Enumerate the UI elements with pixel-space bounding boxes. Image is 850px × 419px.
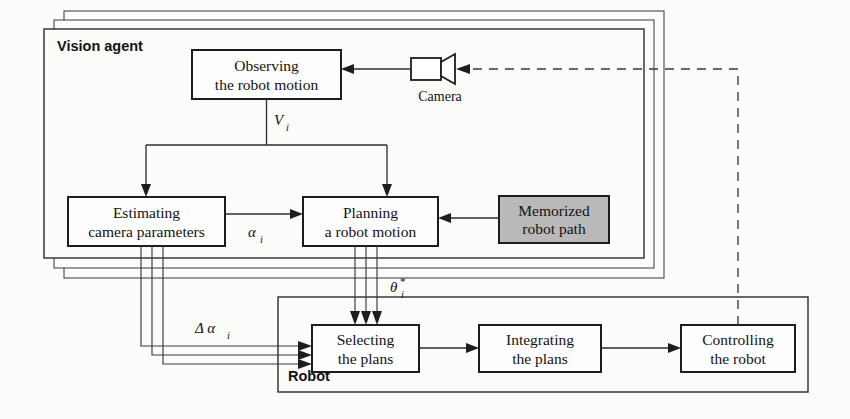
node-memorized-robot-path[interactable]: Memorized robot path <box>499 196 609 243</box>
signal-alpha-subscript: i <box>260 234 263 245</box>
node-memorized-label-line2: robot path <box>522 220 586 237</box>
node-integrating-label-line2: the plans <box>512 350 568 367</box>
node-planning-label-line1: Planning <box>343 204 398 221</box>
node-selecting-label-line1: Selecting <box>337 331 395 348</box>
node-selecting-label-line2: the plans <box>338 350 394 367</box>
node-memorized-label-line1: Memorized <box>518 202 590 219</box>
camera-icon <box>411 54 455 84</box>
vision-agent-panel-label: Vision agent <box>57 38 143 54</box>
camera-body-icon <box>411 58 441 80</box>
node-observing-label-line2: the robot motion <box>215 76 319 93</box>
signal-theta-subscript: i <box>401 289 404 300</box>
signal-delta-alpha-symbol: Δ α <box>194 320 216 336</box>
node-selecting-the-plans[interactable]: Selecting the plans <box>312 325 419 372</box>
node-planning-a-robot-motion[interactable]: Planning a robot motion <box>303 197 438 246</box>
signal-delta-alpha-subscript: i <box>227 330 230 341</box>
diagram-svg: Vision agent Robot Camera Observing the … <box>0 0 850 419</box>
node-integrating-the-plans[interactable]: Integrating the plans <box>479 325 601 372</box>
node-estimating-label-line2: camera parameters <box>88 223 205 240</box>
node-controlling-the-robot[interactable]: Controlling the robot <box>681 325 795 372</box>
signal-alpha-symbol: α <box>248 224 257 240</box>
signal-label-delta-alpha-i: Δ α i <box>194 320 230 341</box>
node-controlling-label-line2: the robot <box>710 350 766 367</box>
node-integrating-label-line1: Integrating <box>506 331 574 348</box>
node-observing-the-robot-motion[interactable]: Observing the robot motion <box>192 50 341 99</box>
block-diagram-canvas: Vision agent Robot Camera Observing the … <box>0 0 850 419</box>
node-controlling-label-line1: Controlling <box>702 331 774 348</box>
node-estimating-camera-parameters[interactable]: Estimating camera parameters <box>68 197 225 246</box>
edge-planning-to-selecting-bundle <box>350 246 382 325</box>
node-observing-label-line1: Observing <box>234 57 299 74</box>
signal-label-theta-i-star: θ * i <box>390 275 406 300</box>
camera-label: Camera <box>418 89 462 104</box>
node-estimating-label-line1: Estimating <box>113 204 180 221</box>
signal-theta-symbol: θ <box>390 279 398 295</box>
node-planning-label-line2: a robot motion <box>325 223 417 240</box>
signal-theta-star: * <box>400 275 406 287</box>
signal-v-subscript: i <box>286 122 289 133</box>
